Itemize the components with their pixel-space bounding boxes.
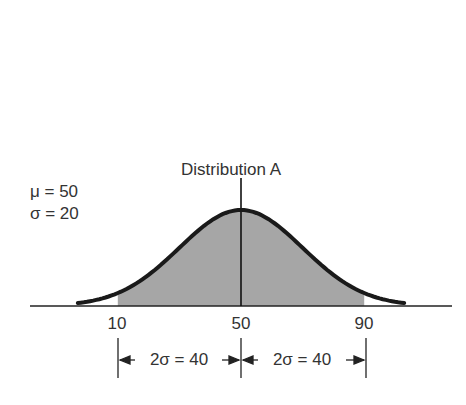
chart-title: Distribution A (181, 160, 281, 180)
dimension-label-right: 2σ = 40 (273, 350, 331, 370)
x-tick-90: 90 (355, 314, 374, 334)
arrow-right-icon (229, 356, 239, 364)
dimension-label-left: 2σ = 40 (150, 350, 208, 370)
x-tick-10: 10 (108, 314, 127, 334)
arrow-left-icon (243, 356, 253, 364)
normal-distribution-chart (0, 0, 466, 405)
sigma-label: σ = 20 (30, 204, 79, 224)
x-tick-50: 50 (232, 314, 251, 334)
arrow-left-icon (120, 356, 130, 364)
arrow-right-icon (354, 356, 364, 364)
mu-label: μ = 50 (30, 182, 78, 202)
